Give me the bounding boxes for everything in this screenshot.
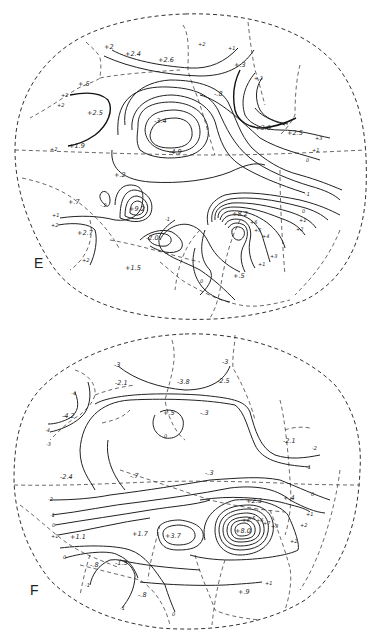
contour-label: +9.2 xyxy=(129,205,145,213)
panel-f-grid-line xyxy=(80,555,90,595)
contour-label: -2.4 xyxy=(60,473,73,481)
contour-label: +2.4 xyxy=(125,50,141,58)
contour-label: +8.0 xyxy=(235,527,251,535)
contour-label: +2 xyxy=(82,257,89,263)
panel-f-midline xyxy=(14,481,360,485)
contour-label: +.4 xyxy=(283,494,295,502)
panel-e: +2 +2.4 +2.6 +2 +1 +.3 +.5 +1 +2 +2.5 +1… xyxy=(15,14,366,320)
contour-label: +.2 xyxy=(114,171,126,179)
contour-label: +3.0 xyxy=(255,124,271,132)
contour-line xyxy=(256,78,288,124)
contour-label: +3 xyxy=(315,135,322,141)
contour-label: +5 xyxy=(254,227,261,233)
contour-map-figure: +2 +2.4 +2.6 +2 +1 +.3 +.5 +1 +2 +2.5 +1… xyxy=(0,0,371,637)
contour-label: +2 xyxy=(104,43,114,51)
contour-label: +2 xyxy=(296,226,303,232)
contour-label: +.5 xyxy=(163,409,175,417)
contour-label: +1.5 xyxy=(125,264,141,272)
contour-line xyxy=(118,366,230,390)
contour-label: +1 xyxy=(299,217,306,223)
contour-label: +2.3 xyxy=(246,497,262,505)
contour-label: +2 xyxy=(50,146,57,152)
contour-label: -1 xyxy=(85,582,90,588)
contour-label: -4 xyxy=(45,427,50,433)
contour-label: +1 xyxy=(228,45,235,51)
panel-e-grid-line xyxy=(295,230,340,295)
contour-line xyxy=(132,95,305,193)
contour-label: +4 xyxy=(262,233,269,239)
contour-label: 0 xyxy=(306,157,309,163)
contour-label: +1.1 xyxy=(70,533,86,541)
contour-label: +7 xyxy=(263,520,271,526)
contour-line xyxy=(160,224,240,272)
contour-label: 0 xyxy=(302,208,305,214)
contour-label: 0 xyxy=(63,554,66,560)
contour-line xyxy=(140,582,262,585)
contour-label: +1 xyxy=(52,212,59,218)
panel-f: -3 -2.1 -3.8 -3 -2.5 -4 -4.2 -4 -3 +.5 0… xyxy=(14,334,360,629)
contour-label: -4.9 xyxy=(169,148,182,156)
contour-label: +1 xyxy=(51,533,58,539)
contour-line xyxy=(60,546,175,612)
panel-e-letter: E xyxy=(34,255,43,271)
contour-label: +2.7 xyxy=(77,229,94,237)
contour-label: +1 xyxy=(306,511,313,517)
contour-label: -3.4 xyxy=(154,117,167,125)
contour-label: +1.9 xyxy=(69,142,85,150)
contour-label: -4 xyxy=(71,390,76,396)
contour-label: +.9 xyxy=(238,588,250,596)
contour-label: -.2 xyxy=(100,202,107,208)
panel-f-grid-line xyxy=(120,470,285,512)
panel-f-grid-line xyxy=(195,555,260,620)
panel-f-grid-line xyxy=(300,470,340,590)
contour-line xyxy=(200,230,211,295)
panel-f-grid-line xyxy=(280,400,291,535)
contour-line xyxy=(68,93,110,146)
contour-label: +.7 xyxy=(68,198,81,206)
contour-label: -3 xyxy=(46,441,51,447)
contour-label: -1 xyxy=(305,191,310,197)
contour-label: 0 xyxy=(172,611,175,617)
contour-label: +.5 xyxy=(78,80,90,88)
contour-label: 0 xyxy=(200,278,203,284)
contour-label: -1 xyxy=(120,605,125,611)
contour-label: +2 xyxy=(198,41,205,47)
contour-label: +1 xyxy=(258,261,265,267)
panel-f-grid-line xyxy=(233,335,255,420)
contour-label: +3.7 xyxy=(165,532,182,540)
contour-label: +.3 xyxy=(234,61,246,69)
contour-label: -.8 xyxy=(214,90,223,98)
contour-label: -1 xyxy=(50,512,55,518)
contour-label: -1 xyxy=(165,216,170,222)
contour-label: +2.6 xyxy=(158,56,174,64)
contour-label: -.3 xyxy=(200,409,209,417)
contour-label: -4.2 xyxy=(62,412,75,420)
panel-f-grid-line xyxy=(148,525,160,580)
panel-f-grid-line xyxy=(212,560,225,625)
panel-f-grid-line xyxy=(285,427,310,430)
contour-label: -2 xyxy=(312,445,317,451)
contour-label: -.3 xyxy=(205,469,214,477)
contour-label: +.5 xyxy=(233,272,245,280)
panel-e-outline xyxy=(15,14,366,320)
contour-label: 0 xyxy=(311,491,314,497)
contour-label: +8.2 xyxy=(232,210,248,218)
contour-line xyxy=(159,220,235,300)
contour-line xyxy=(95,394,320,458)
contour-line xyxy=(107,440,125,490)
contour-line xyxy=(207,193,340,225)
panel-e-grid-line xyxy=(210,220,240,318)
contour-label: -.8 xyxy=(138,591,147,599)
panel-e-grid-line xyxy=(30,42,101,118)
contour-label: 0 xyxy=(52,522,55,528)
contour-label: +1 xyxy=(312,147,319,153)
contour-label: +3 xyxy=(270,253,277,259)
contour-label: -3 xyxy=(222,358,228,366)
contour-label: 0 xyxy=(164,433,167,439)
contour-label: -3.8 xyxy=(177,378,190,386)
contour-label: +2.5 xyxy=(287,129,303,137)
contour-label: +2.5 xyxy=(87,109,103,117)
contour-label: +1.7 xyxy=(132,530,149,538)
contour-label: -1 xyxy=(306,464,311,470)
contour-label: +2 xyxy=(290,538,297,544)
